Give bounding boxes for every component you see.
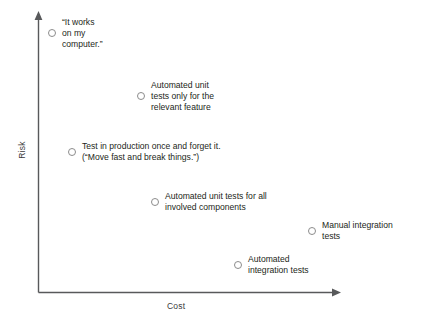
data-point-label: Automated unit tests for all involved co… — [165, 191, 267, 213]
open-circle-marker — [234, 261, 242, 269]
data-point-automated-unit-tests-all-components: Automated unit tests for all involved co… — [151, 198, 267, 220]
data-point-label: “It works on my computer.” — [62, 17, 103, 51]
data-point-manual-integration-tests: Manual integration tests — [308, 227, 393, 249]
data-point-label: Manual integration tests — [322, 220, 393, 242]
x-axis-label: Cost — [167, 301, 185, 311]
open-circle-marker — [308, 227, 316, 235]
risk-vs-cost-scatter-chart: Risk Cost “It works on my computer.” Aut… — [0, 0, 421, 321]
open-circle-marker — [48, 29, 56, 37]
y-axis-label: Risk — [17, 127, 27, 173]
x-axis-arrowhead — [332, 289, 341, 297]
data-point-it-works-on-my-computer: “It works on my computer.” — [48, 29, 103, 63]
y-axis-arrowhead — [35, 11, 43, 20]
data-point-automated-integration-tests: Automated integration tests — [234, 261, 309, 283]
data-point-label: Automated integration tests — [248, 254, 309, 276]
open-circle-marker — [68, 148, 76, 156]
data-point-automated-unit-tests-relevant-feature: Automated unit tests only for the releva… — [137, 92, 214, 126]
data-point-label: Test in production once and forget it. (… — [82, 141, 221, 163]
data-point-test-in-production: Test in production once and forget it. (… — [68, 148, 221, 170]
open-circle-marker — [137, 92, 145, 100]
open-circle-marker — [151, 198, 159, 206]
data-point-label: Automated unit tests only for the releva… — [151, 80, 214, 114]
